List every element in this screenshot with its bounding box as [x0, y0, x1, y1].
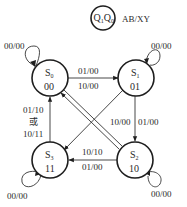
edge-s3-s0-label-2: 或 — [29, 116, 38, 127]
legend: Q1Q0 AB/XY — [91, 6, 151, 30]
edge-s0-s1-label-1: 01/00 — [78, 66, 99, 76]
state-s3: S3 11 — [32, 142, 68, 178]
state-s1: S1 01 — [118, 60, 154, 96]
edge-s0-s1-label-2: 10/00 — [78, 81, 99, 91]
legend-edge-format: AB/XY — [122, 14, 151, 24]
edge-s3-s0-label-3: 10/11 — [23, 129, 43, 139]
state-s2: S2 10 — [117, 142, 153, 178]
state-s1-code: 01 — [130, 81, 140, 92]
state-s2-code: 10 — [129, 163, 139, 174]
legend-node-label: Q1Q0 — [94, 12, 114, 24]
edge-s3-s0-label-1: 01/10 — [23, 105, 44, 115]
self-loop-s3-label: 00/00 — [7, 191, 28, 201]
self-loop-s1 — [146, 50, 160, 65]
edge-s2-s3-label-1: 10/10 — [82, 147, 103, 157]
state-s0: S0 00 — [32, 60, 68, 96]
self-loop-s2-label: 00/00 — [151, 189, 172, 199]
edge-s1-s2-label: 01/00 — [138, 117, 159, 127]
edge-s1-s3-label: 10/00 — [110, 117, 131, 127]
state-s3-code: 11 — [45, 163, 55, 174]
self-loop-s1-label: 00/00 — [151, 41, 172, 51]
edge-s2-s3-label-2: 01/00 — [82, 162, 103, 172]
state-diagram: Q1Q0 AB/XY 01/00 10/00 01/00 10/00 10/10… — [0, 0, 187, 207]
self-loop-s0-label: 00/00 — [4, 41, 25, 51]
state-s0-code: 00 — [44, 81, 54, 92]
